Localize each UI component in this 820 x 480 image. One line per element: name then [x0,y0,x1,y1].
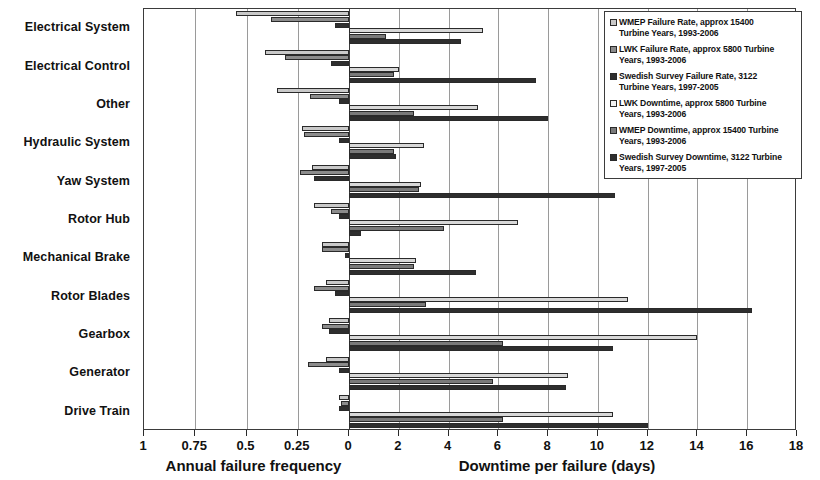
bar [322,324,349,329]
bar [349,423,648,428]
bar-group [144,278,795,316]
bar [331,209,349,214]
legend-swatch-icon [610,127,617,134]
axis-tick [547,430,548,436]
right-axis-tick-label: 12 [639,438,653,453]
category-label: Gearbox [79,327,130,341]
category-label: Mechanical Brake [23,250,130,264]
legend-item: LWK Downtime, approx 5800 TurbineYears, … [610,98,796,119]
left-axis-tick-label: 0.25 [284,438,309,453]
left-axis-tick-label: 0.5 [236,438,254,453]
bar [339,368,349,373]
bar [349,34,386,39]
right-axis-title: Downtime per failure (days) [459,457,656,474]
axis-tick [647,430,648,436]
legend-label: LWK Failure Rate, approx 5800 TurbineYea… [619,44,774,65]
bar-group [144,201,795,239]
legend-label: LWK Downtime, approx 5800 TurbineYears, … [619,98,766,119]
bar [349,143,424,148]
bar [339,99,349,104]
legend-swatch-icon [610,100,617,107]
bar [326,357,349,362]
axis-tick [194,430,195,436]
axis-tick [497,430,498,436]
bar [339,395,349,400]
bar [349,258,416,263]
bar [339,406,349,411]
right-axis-tick-label: 14 [689,438,703,453]
legend-swatch-icon [610,73,617,80]
right-axis-tick-label: 6 [494,438,501,453]
axis-tick [246,430,247,436]
bar [349,346,613,351]
bar [349,379,493,384]
bar-group [144,239,795,277]
bar [349,154,396,159]
bar [236,11,349,16]
category-label: Generator [69,365,130,379]
bar [349,385,566,390]
bar [314,203,349,208]
left-axis-title: Annual failure frequency [166,457,342,474]
bar [322,242,349,247]
right-axis-tick-label: 4 [444,438,451,453]
category-label: Electrical System [25,20,130,34]
left-axis-tick-label: 1 [139,438,146,453]
right-axis-tick-label: 18 [789,438,803,453]
chart-legend: WMEP Failure Rate, approx 15400Turbine Y… [604,11,802,179]
bar [349,187,419,192]
bar [349,308,752,313]
bar [349,341,503,346]
bar [314,176,349,181]
legend-label: Swedish Survey Downtime, 3122 TurbineYea… [619,152,782,173]
bar [349,116,548,121]
legend-label: Swedish Survey Failure Rate, 3122Turbine… [619,71,757,92]
axis-tick [796,430,797,436]
bar [349,417,503,422]
legend-label: WMEP Failure Rate, approx 15400Turbine Y… [619,17,754,38]
legend-item: WMEP Downtime, approx 15400 TurbineYears… [610,125,796,146]
bar [349,28,483,33]
category-axis-labels: Electrical SystemElectrical ControlOther… [0,0,138,430]
bar [314,286,349,291]
bar [339,214,349,219]
axis-tick [348,430,349,436]
bar [312,165,349,170]
bar [349,67,399,72]
right-axis-tick-label: 16 [739,438,753,453]
bar [335,291,349,296]
legend-swatch-icon [610,19,617,26]
category-label: Rotor Hub [68,212,130,226]
bar [326,280,349,285]
bar [349,149,394,154]
bar [349,72,394,77]
category-label: Electrical Control [25,59,130,73]
bar [345,253,349,258]
bar [349,182,421,187]
legend-label: WMEP Downtime, approx 15400 TurbineYears… [619,125,779,146]
bar [349,39,461,44]
bar [349,412,613,417]
axis-tick [297,430,298,436]
bar [329,329,350,334]
category-label: Rotor Blades [51,289,130,303]
bar-group [144,354,795,392]
bar [349,264,414,269]
bar [285,55,349,60]
bar [271,17,349,22]
bar [349,226,444,231]
bar [308,362,349,367]
bar [349,302,426,307]
axis-tick [448,430,449,436]
bar [349,105,478,110]
bar-group [144,316,795,354]
category-label: Drive Train [64,404,130,418]
axis-tick [143,430,144,436]
legend-item: WMEP Failure Rate, approx 15400Turbine Y… [610,17,796,38]
bar [349,111,414,116]
legend-swatch-icon [610,154,617,161]
axis-tick [746,430,747,436]
bar [300,170,349,175]
right-axis-tick-label: 10 [590,438,604,453]
chart-figure: Electrical SystemElectrical ControlOther… [0,0,820,480]
